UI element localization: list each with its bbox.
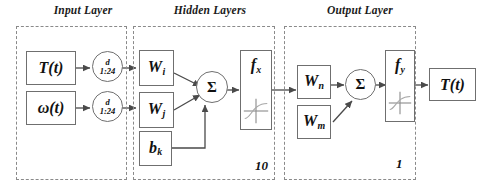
sigmoid-curve-icon <box>241 95 271 127</box>
output-node-temperature-label: T(t) <box>440 77 465 93</box>
hidden-weight-i-box: Wi <box>139 50 174 86</box>
hidden-activation-box: fx <box>240 50 272 130</box>
output-activation-subscript: y <box>401 64 405 75</box>
hidden-summation-node: Σ <box>196 71 228 103</box>
input-node-omega: ω(t) <box>26 91 76 125</box>
delay-circle-1: d 1:24 <box>92 51 123 82</box>
neural-network-diagram: Input Layer Hidden Layers Output Layer T… <box>0 0 483 192</box>
output-activation-base: f <box>395 56 400 73</box>
output-weight-n-base: W <box>304 72 318 89</box>
hidden-neuron-count: 10 <box>255 158 268 174</box>
hidden-bias-box: bk <box>139 131 172 166</box>
output-summation-node: Σ <box>345 69 376 100</box>
hidden-weight-j-base: W <box>148 100 162 117</box>
output-weight-m-base: W <box>303 112 317 129</box>
input-node-temperature-label: T(t) <box>39 60 64 76</box>
delay-circle-2-range: 1:24 <box>100 107 116 116</box>
hidden-bias-subscript: k <box>157 146 162 157</box>
output-summation-symbol: Σ <box>356 76 366 93</box>
delay-circle-2: d 1:24 <box>92 91 123 122</box>
delay-circle-1-range: 1:24 <box>100 67 116 76</box>
input-node-temperature: T(t) <box>26 51 76 85</box>
hidden-layer-caption: Hidden Layers <box>140 4 280 16</box>
output-node-temperature: T(t) <box>429 68 476 101</box>
output-layer-caption: Output Layer <box>290 4 430 16</box>
output-weight-n-box: Wn <box>297 65 331 99</box>
output-weight-n-subscript: n <box>319 80 325 91</box>
hidden-summation-symbol: Σ <box>207 79 217 96</box>
output-weight-m-box: Wm <box>297 105 331 139</box>
hidden-weight-j-box: Wj <box>139 92 174 128</box>
output-neuron-count: 1 <box>396 156 403 172</box>
output-weight-m-subscript: m <box>317 120 325 131</box>
hidden-weight-i-base: W <box>148 58 162 75</box>
hidden-bias-base: b <box>149 139 157 156</box>
input-node-omega-label: ω(t) <box>38 100 65 116</box>
input-layer-caption: Input Layer <box>18 4 148 16</box>
hidden-weight-j-subscript: j <box>162 108 165 119</box>
hidden-weight-i-subscript: i <box>162 66 165 77</box>
hidden-activation-label: fx <box>241 57 271 75</box>
sigmoid-curve-icon <box>386 87 414 119</box>
hidden-activation-subscript: x <box>256 64 261 75</box>
output-activation-label: fy <box>386 57 414 75</box>
output-activation-box: fy <box>385 50 415 122</box>
